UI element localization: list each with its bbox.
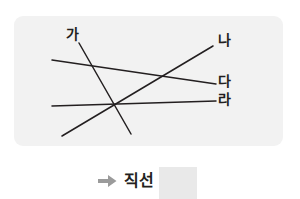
line-na — [62, 46, 213, 136]
line-label-ga: 가 — [66, 27, 79, 41]
caption-text: 직선 — [124, 173, 154, 189]
lines-canvas — [0, 0, 300, 160]
right-arrow-icon — [98, 174, 117, 188]
line-da — [52, 60, 216, 84]
line-label-da: 다 — [218, 74, 231, 88]
line-label-na: 나 — [218, 33, 231, 47]
answer-blank[interactable] — [159, 167, 197, 199]
line-label-ra: 라 — [218, 92, 231, 106]
figure-root: 가 나 다 라 직선 — [0, 0, 300, 199]
caption-row: 직선 — [98, 166, 197, 196]
line-ra — [52, 101, 216, 106]
